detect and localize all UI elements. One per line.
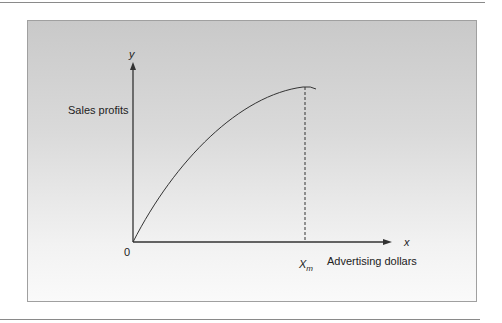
x-axis-var: x (404, 236, 410, 248)
profit-curve (133, 87, 316, 242)
diagram-graphics (0, 0, 502, 323)
y-axis-label: Sales profits (68, 104, 129, 116)
x-axis-label: Advertising dollars (327, 255, 417, 267)
bottom-rule (0, 319, 480, 320)
y-axis-arrow-icon (130, 62, 136, 70)
y-axis-var: y (129, 48, 135, 60)
origin-label: 0 (124, 246, 130, 258)
x-axis-arrow-icon (383, 239, 392, 245)
max-marker-label: Xm (299, 258, 313, 273)
max-marker-sub: m (306, 264, 313, 273)
